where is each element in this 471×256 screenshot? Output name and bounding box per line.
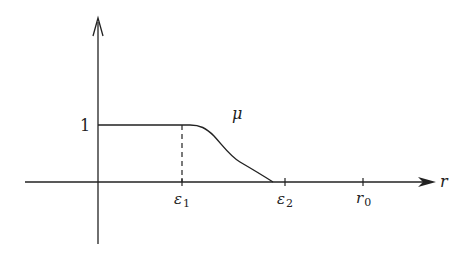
function-label-mu: μ xyxy=(232,104,242,123)
x-tick-label-eps1: ε1 xyxy=(174,190,190,210)
x-axis-label-r: r xyxy=(440,172,449,191)
y-tick-label-1: 1 xyxy=(80,116,90,135)
mu-cutoff-diagram: 1 μ r ε1 ε2 r0 xyxy=(0,0,471,256)
x-tick-label-r0: r0 xyxy=(356,189,371,209)
mu-curve xyxy=(98,125,273,182)
x-tick-label-eps2: ε2 xyxy=(277,190,293,210)
